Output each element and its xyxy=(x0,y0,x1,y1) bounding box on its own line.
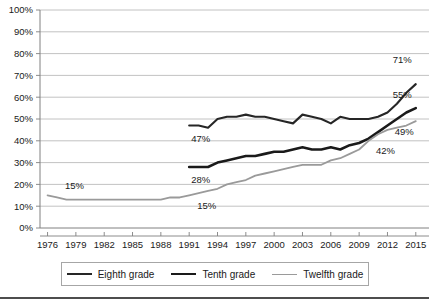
svg-text:60%: 60% xyxy=(14,92,34,103)
svg-text:28%: 28% xyxy=(191,174,211,185)
data-labels: 15%47%28%15%71%55%42%49% xyxy=(65,54,414,211)
x-axis-ticks xyxy=(48,232,416,236)
svg-text:2000: 2000 xyxy=(264,239,285,250)
svg-text:49%: 49% xyxy=(395,126,415,137)
svg-text:1988: 1988 xyxy=(150,239,171,250)
svg-text:40%: 40% xyxy=(14,135,34,146)
legend-line-icon-eighth xyxy=(67,273,92,275)
svg-text:1991: 1991 xyxy=(179,239,200,250)
svg-text:2003: 2003 xyxy=(292,239,313,250)
y-axis-ticks xyxy=(36,10,40,228)
svg-text:1997: 1997 xyxy=(235,239,256,250)
svg-text:42%: 42% xyxy=(376,145,396,156)
svg-text:20%: 20% xyxy=(14,179,34,190)
svg-text:1985: 1985 xyxy=(122,239,143,250)
svg-text:2015: 2015 xyxy=(405,239,426,250)
svg-text:100%: 100% xyxy=(9,4,34,15)
data-series xyxy=(48,84,416,200)
legend-line-icon-twelfth xyxy=(272,274,297,275)
svg-text:70%: 70% xyxy=(14,70,34,81)
plot-area: 0%10%20%30%40%50%60%70%80%90%100% 197619… xyxy=(0,0,429,256)
y-axis-labels: 0%10%20%30%40%50%60%70%80%90%100% xyxy=(9,4,34,233)
legend-label-tenth: Tenth grade xyxy=(202,269,255,280)
legend-item-twelfth-grade: Twelfth grade xyxy=(272,269,363,280)
legend-item-eighth-grade: Eighth grade xyxy=(67,269,155,280)
svg-text:50%: 50% xyxy=(14,113,34,124)
legend-label-eighth: Eighth grade xyxy=(98,269,155,280)
svg-text:1976: 1976 xyxy=(37,239,58,250)
svg-text:15%: 15% xyxy=(197,200,217,211)
line-chart-svg: 0%10%20%30%40%50%60%70%80%90%100% 197619… xyxy=(0,0,429,256)
svg-text:71%: 71% xyxy=(393,54,413,65)
svg-text:0%: 0% xyxy=(19,222,33,233)
chart-figure: 0%10%20%30%40%50%60%70%80%90%100% 197619… xyxy=(0,0,429,305)
svg-text:1994: 1994 xyxy=(207,239,228,250)
svg-text:2006: 2006 xyxy=(320,239,341,250)
svg-text:90%: 90% xyxy=(14,26,34,37)
legend-line-icon-tenth xyxy=(171,273,196,275)
svg-text:80%: 80% xyxy=(14,48,34,59)
legend-item-tenth-grade: Tenth grade xyxy=(171,269,255,280)
svg-text:1979: 1979 xyxy=(65,239,86,250)
svg-text:10%: 10% xyxy=(14,201,34,212)
x-axis-labels: 1976197919821985198819911994199720002003… xyxy=(37,239,426,250)
svg-text:15%: 15% xyxy=(65,180,85,191)
svg-text:55%: 55% xyxy=(393,89,413,100)
legend-label-twelfth: Twelfth grade xyxy=(303,269,363,280)
svg-text:1982: 1982 xyxy=(94,239,115,250)
svg-text:30%: 30% xyxy=(14,157,34,168)
svg-text:47%: 47% xyxy=(191,133,211,144)
svg-text:2012: 2012 xyxy=(377,239,398,250)
footer-divider xyxy=(0,297,429,299)
svg-text:2009: 2009 xyxy=(349,239,370,250)
chart-legend: Eighth grade Tenth grade Twelfth grade xyxy=(61,262,369,286)
